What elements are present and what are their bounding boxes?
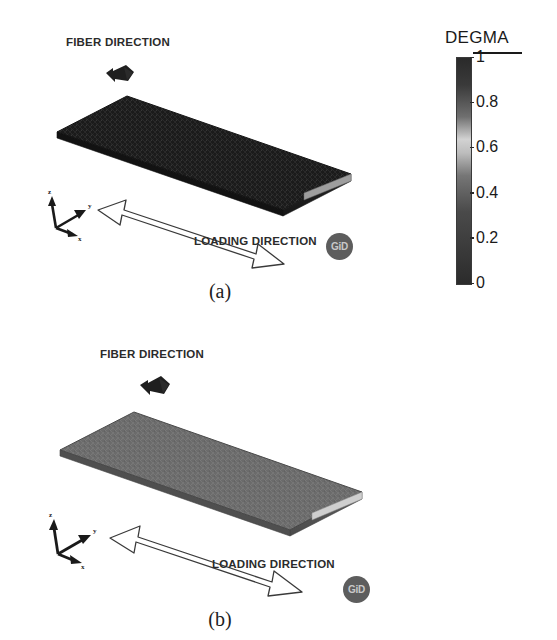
panel-b: FIBER DIRECTION xyxy=(0,320,440,640)
panel-a: FIBER DIRECTION xyxy=(0,0,440,320)
colorbar-legend: DEGMA 10.80.60.40.20 xyxy=(440,0,557,320)
colorbar-gradient-bar xyxy=(456,57,472,285)
svg-text:z: z xyxy=(49,511,52,519)
fiber-direction-label-a: FIBER DIRECTION xyxy=(66,36,170,48)
axis-triad-a: z y x xyxy=(36,186,98,242)
colorbar-tick-label: 1 xyxy=(476,49,485,65)
loading-direction-label-b: LOADING DIRECTION xyxy=(212,558,335,570)
colorbar-tick-mark xyxy=(470,192,474,194)
colorbar-tick-label: 0 xyxy=(476,275,485,291)
colorbar-tick-mark xyxy=(470,283,474,285)
colorbar-tick-mark xyxy=(470,102,474,104)
colorbar-tick-label: 0.2 xyxy=(476,230,498,246)
svg-text:x: x xyxy=(81,563,85,570)
svg-text:y: y xyxy=(88,202,92,210)
fiber-direction-arrow-icon-a xyxy=(104,62,138,92)
colorbar-tick-mark xyxy=(470,57,474,59)
panel-caption-b: (b) xyxy=(0,608,440,631)
colorbar-tick-label: 0.8 xyxy=(476,94,498,110)
axis-triad-b: z y x xyxy=(36,508,104,570)
fiber-direction-label-b: FIBER DIRECTION xyxy=(100,348,204,360)
loading-direction-label-a: LOADING DIRECTION xyxy=(194,235,317,247)
colorbar-title: DEGMA xyxy=(445,28,509,48)
svg-text:z: z xyxy=(48,188,51,196)
colorbar-tick-label: 0.4 xyxy=(476,185,498,201)
gid-logo-a: GiD xyxy=(326,233,353,260)
panel-caption-a: (a) xyxy=(0,280,440,303)
figure-root: FIBER DIRECTION xyxy=(0,0,557,640)
colorbar-tick-mark xyxy=(470,147,474,149)
composite-plate-b xyxy=(58,408,368,538)
colorbar-tick-label: 0.6 xyxy=(476,139,498,155)
svg-text:y: y xyxy=(93,527,97,535)
svg-text:x: x xyxy=(78,235,82,242)
gid-logo-b: GiD xyxy=(343,576,370,603)
colorbar-tick-mark xyxy=(470,237,474,239)
fiber-direction-arrow-icon-b xyxy=(138,373,174,405)
